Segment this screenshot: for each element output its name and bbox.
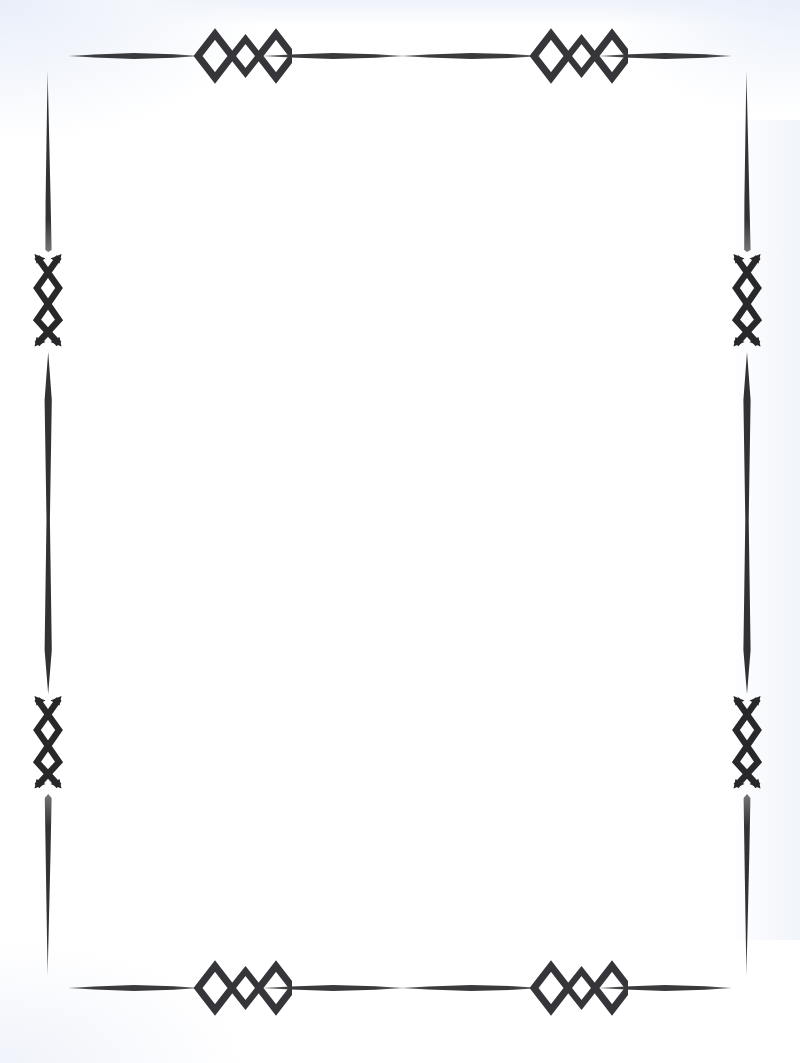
right-rule-segment-2	[743, 352, 750, 694]
right-border	[734, 70, 761, 976]
left-cross-ornament-2	[35, 696, 62, 789]
right-cross-ornament-1	[734, 254, 761, 347]
document-page	[0, 0, 800, 1063]
top-rule-segment-1	[68, 53, 200, 59]
page-content-area[interactable]	[72, 72, 728, 988]
left-rule-segment-1	[45, 70, 51, 252]
top-rule-segment-2	[262, 53, 404, 59]
left-border	[35, 70, 62, 976]
top-rule-segment-3	[400, 53, 542, 59]
right-rule-segment-1	[744, 70, 750, 252]
right-rule-segment-3	[744, 794, 751, 976]
top-rule-segment-4	[598, 53, 732, 59]
left-rule-segment-2	[45, 352, 52, 694]
left-rule-segment-3	[45, 794, 52, 976]
right-cross-ornament-2	[734, 696, 761, 789]
left-cross-ornament-1	[35, 254, 62, 347]
